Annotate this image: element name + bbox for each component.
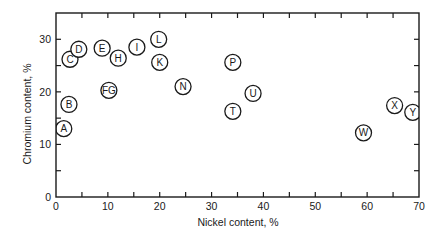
x-tick-label: 0	[53, 200, 59, 212]
point-label: U	[249, 88, 256, 99]
y-tick-label: 20	[39, 86, 51, 98]
point-label: A	[60, 123, 67, 134]
point-label: P	[229, 57, 236, 68]
y-tick-label: 10	[39, 138, 51, 150]
point-label: L	[156, 34, 162, 45]
data-point-t: T	[225, 103, 241, 119]
data-point-n: N	[175, 79, 191, 95]
x-tick-label: 70	[413, 200, 425, 212]
data-point-w: W	[356, 125, 372, 141]
x-tick-label: 30	[206, 200, 218, 212]
point-label: K	[156, 57, 163, 68]
point-label: T	[230, 106, 236, 117]
point-label: C	[66, 54, 73, 65]
data-point-p: P	[225, 54, 241, 70]
x-tick-label: 60	[361, 200, 373, 212]
data-point-x: X	[387, 98, 403, 114]
point-label: H	[115, 53, 122, 64]
x-tick-label: 50	[309, 200, 321, 212]
data-point-u: U	[245, 85, 261, 101]
data-point-e: E	[94, 40, 110, 56]
data-point-b: B	[61, 96, 77, 112]
point-label: X	[391, 100, 398, 111]
data-point-l: L	[151, 31, 167, 47]
y-axis-title-group: Chromium content, %	[21, 64, 33, 165]
point-label: N	[179, 81, 186, 92]
y-tick-label: 30	[39, 33, 51, 45]
data-point-d: D	[71, 41, 87, 57]
data-point-h: H	[110, 50, 126, 66]
x-tick-label: 40	[258, 200, 270, 212]
point-label: E	[99, 43, 106, 54]
data-point-a: A	[56, 121, 72, 137]
data-points: ABCDEFGHILKNPTUWXY	[56, 31, 421, 141]
x-tick-label: 10	[102, 200, 114, 212]
point-label: I	[136, 42, 139, 53]
point-label: D	[75, 44, 82, 55]
point-label: B	[66, 99, 73, 110]
point-label: W	[359, 127, 369, 138]
data-point-i: I	[129, 39, 145, 55]
x-axis-title: Nickel content, %	[197, 216, 278, 228]
data-point-k: K	[152, 54, 168, 70]
point-label: Y	[409, 107, 416, 118]
point-label: FG	[102, 85, 116, 96]
x-tick-label: 20	[154, 200, 166, 212]
y-tick-label: 0	[45, 191, 51, 203]
scatter-chart: Chromium content, % Nickel content, % 01…	[0, 0, 446, 242]
y-axis-title: Chromium content, %	[21, 64, 33, 165]
data-point-fg: FG	[101, 82, 117, 98]
